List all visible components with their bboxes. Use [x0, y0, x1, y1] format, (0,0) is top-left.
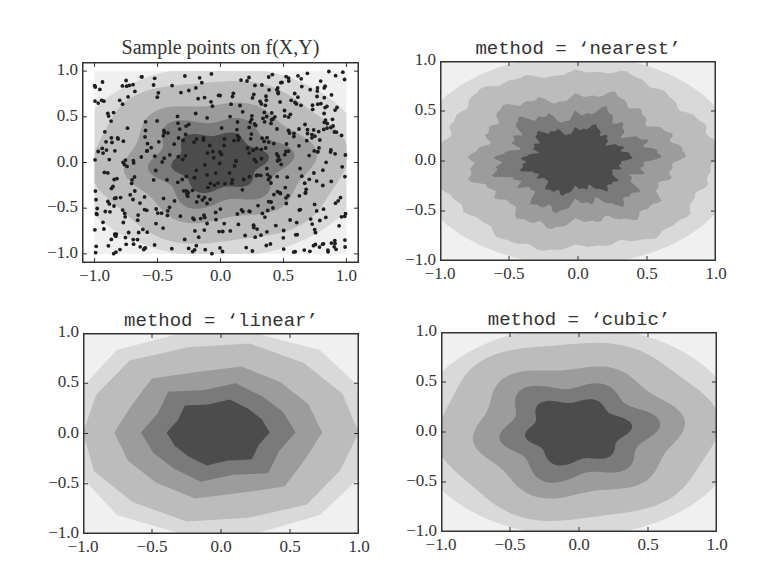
contour-plot-nearest: [440, 61, 716, 261]
y-tick-label: −1.0: [35, 523, 79, 543]
contour-plot-cubic: [441, 332, 717, 532]
x-tick-label: −0.5: [490, 264, 528, 284]
y-tick-label: 0.5: [393, 371, 437, 391]
x-tick-label: 0.0: [202, 266, 240, 286]
x-tick-label: −1.0: [76, 266, 114, 286]
subplot-title: method = ‘cubic’: [441, 309, 717, 331]
x-tick-label: −0.5: [491, 535, 529, 555]
y-tick-label: 0.5: [34, 106, 78, 126]
x-tick-label: 0.5: [264, 266, 302, 286]
y-tick-label: −0.5: [34, 197, 78, 217]
x-tick-label: −0.5: [139, 266, 177, 286]
y-tick-label: 0.0: [393, 421, 437, 441]
y-tick-label: 1.0: [392, 50, 436, 70]
x-tick-label: −0.5: [133, 537, 171, 557]
y-tick-label: −1.0: [34, 243, 78, 263]
contour-scatter-plot: [82, 62, 359, 263]
x-tick-label: 1.0: [698, 535, 736, 555]
x-tick-label: 0.0: [202, 537, 240, 557]
contour-plot-linear: [83, 333, 359, 534]
y-tick-label: 0.0: [35, 423, 79, 443]
subplot-title: method = ‘nearest’: [440, 38, 716, 60]
y-tick-label: −1.0: [392, 250, 436, 270]
y-tick-label: 0.5: [392, 100, 436, 120]
y-tick-label: −0.5: [393, 471, 437, 491]
x-tick-label: 0.5: [271, 537, 309, 557]
y-tick-label: 0.0: [392, 150, 436, 170]
x-tick-label: 1.0: [697, 264, 735, 284]
x-tick-label: 0.5: [629, 535, 667, 555]
y-tick-label: 1.0: [34, 60, 78, 80]
x-tick-label: 0.5: [628, 264, 666, 284]
x-tick-label: 0.0: [559, 264, 597, 284]
x-tick-label: 0.0: [560, 535, 598, 555]
y-tick-label: 1.0: [35, 322, 79, 342]
y-tick-label: 0.0: [34, 152, 78, 172]
subplot-title: method = ‘linear’: [83, 310, 359, 332]
y-tick-label: −1.0: [393, 521, 437, 541]
y-tick-label: 0.5: [35, 372, 79, 392]
y-tick-label: −0.5: [35, 473, 79, 493]
x-tick-label: 1.0: [327, 266, 365, 286]
x-tick-label: 1.0: [340, 537, 378, 557]
subplot-title: Sample points on f(X,Y): [82, 36, 359, 59]
y-tick-label: 1.0: [393, 321, 437, 341]
y-tick-label: −0.5: [392, 200, 436, 220]
